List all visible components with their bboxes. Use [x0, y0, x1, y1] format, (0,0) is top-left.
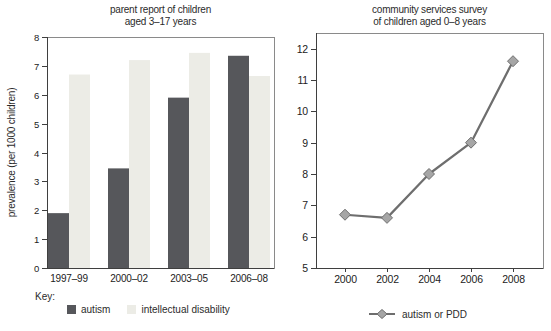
svg-text:2006: 2006	[460, 273, 483, 285]
svg-text:2003–05: 2003–05	[170, 273, 208, 284]
legend-label-autism: autism	[81, 304, 110, 315]
svg-text:5: 5	[34, 119, 39, 130]
bar-chart-legend: autism intellectual disability	[67, 304, 230, 315]
svg-text:12: 12	[297, 43, 309, 55]
legend-item-autism: autism	[67, 304, 110, 315]
svg-text:3: 3	[34, 176, 39, 187]
svg-text:5: 5	[302, 262, 308, 274]
charts-plot-area: 0123456781997–992000–022003–052006–08567…	[0, 0, 551, 331]
svg-text:1997–99: 1997–99	[50, 273, 88, 284]
svg-text:2008: 2008	[502, 273, 525, 285]
svg-text:11: 11	[298, 74, 309, 86]
svg-text:7: 7	[34, 61, 39, 72]
line-chart-title: community services survey of children ag…	[316, 4, 543, 27]
autism-swatch-icon	[67, 305, 76, 314]
svg-text:2000–02: 2000–02	[110, 273, 148, 284]
intellectual-disability-swatch-icon	[127, 305, 136, 314]
svg-text:0: 0	[34, 263, 39, 274]
svg-text:4: 4	[34, 148, 39, 159]
key-label: Key:	[35, 291, 55, 302]
svg-text:2006–08: 2006–08	[230, 273, 268, 284]
svg-text:1: 1	[34, 234, 39, 245]
line-chart-title-line1: community services survey	[316, 4, 543, 16]
legend-label-autism-or-pdd: autism or PDD	[402, 309, 467, 320]
bar-chart-title: parent report of children aged 3–17 year…	[47, 4, 274, 27]
line-chart-title-line2: of children aged 0–8 years	[316, 16, 543, 28]
svg-text:2002: 2002	[376, 273, 399, 285]
svg-text:6: 6	[302, 231, 308, 243]
bar-chart-title-line1: parent report of children	[47, 4, 274, 16]
legend-item-intellectual-disability: intellectual disability	[127, 304, 229, 315]
bar-chart-title-line2: aged 3–17 years	[47, 16, 274, 28]
svg-text:9: 9	[302, 137, 308, 149]
svg-text:2000: 2000	[334, 273, 357, 285]
svg-text:8: 8	[302, 168, 308, 180]
line-chart-legend: autism or PDD	[368, 308, 467, 320]
svg-text:2004: 2004	[418, 273, 441, 285]
svg-text:7: 7	[302, 199, 308, 211]
svg-text:2: 2	[34, 205, 39, 216]
legend-label-intellectual-disability: intellectual disability	[141, 304, 229, 315]
prevalence-figure: 0123456781997–992000–022003–052006–08567…	[0, 0, 551, 331]
line-marker-icon	[368, 308, 396, 320]
y-axis-label: prevalence (per 1000 children)	[6, 53, 19, 253]
svg-text:8: 8	[34, 32, 39, 43]
svg-text:6: 6	[34, 90, 39, 101]
svg-text:10: 10	[297, 105, 309, 117]
